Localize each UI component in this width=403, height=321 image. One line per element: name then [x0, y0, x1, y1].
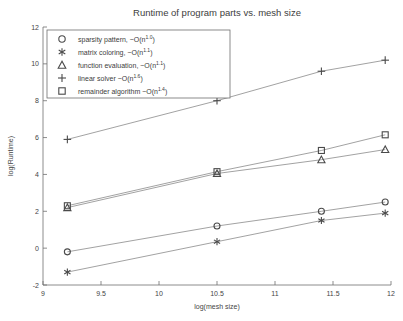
y-tick-label: -2	[33, 282, 39, 289]
x-tick-label: 12	[387, 290, 395, 297]
data-point-plus	[64, 136, 72, 144]
x-tick-label: 10.5	[210, 290, 224, 297]
x-tick-label: 9	[41, 290, 45, 297]
y-tick-label: 10	[31, 60, 39, 67]
y-tick-label: 6	[35, 134, 39, 141]
chart-title: Runtime of program parts vs. mesh size	[133, 7, 301, 18]
runtime-vs-mesh-size-chart: Runtime of program parts vs. mesh size99…	[0, 0, 403, 321]
data-point-plus	[381, 56, 389, 64]
series-line-asterisk	[67, 213, 385, 272]
data-point-asterisk	[214, 238, 220, 245]
y-tick-label: 12	[31, 24, 39, 31]
series-line-square	[67, 135, 385, 206]
legend-label-asterisk: matrix coloring, ~O(n1.1)	[78, 47, 152, 57]
series-line-triangle	[67, 150, 385, 208]
legend-label-plus: linear solver ~O(n1.6)	[78, 73, 143, 83]
y-tick-label: 0	[35, 245, 39, 252]
series-line-circle	[67, 202, 385, 252]
data-point-plus	[318, 67, 326, 75]
y-axis-label: log(Runtime)	[7, 136, 15, 176]
data-point-triangle	[382, 146, 389, 153]
x-tick-label: 11.5	[326, 290, 339, 297]
x-axis-label: log(mesh size)	[194, 303, 240, 311]
data-point-square	[382, 132, 388, 138]
legend-label-circle: sparsity pattern, ~O(n1.0)	[78, 34, 155, 44]
x-tick-label: 10	[155, 290, 163, 297]
x-tick-label: 11	[271, 290, 278, 297]
data-point-asterisk	[64, 269, 70, 276]
y-tick-label: 4	[35, 171, 39, 178]
x-tick-label: 9.5	[96, 290, 106, 297]
y-tick-label: 2	[35, 208, 39, 215]
y-tick-label: 8	[35, 97, 39, 104]
legend-label-triangle: function evaluation, ~O(n1.1)	[78, 60, 165, 70]
chart-container: Runtime of program parts vs. mesh size99…	[0, 0, 403, 321]
legend-label-square: remainder algorithm ~O(n1.4)	[78, 86, 167, 96]
